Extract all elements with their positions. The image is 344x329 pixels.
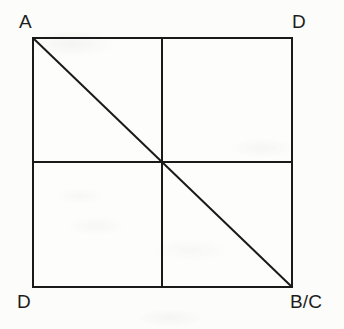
corner-label-top-left: A <box>19 12 32 31</box>
corner-label-bottom-right: B/C <box>290 292 322 311</box>
figure-canvas: A D D B/C <box>0 0 344 329</box>
corner-label-bottom-left: D <box>17 292 31 311</box>
square-diagram <box>0 0 344 329</box>
corner-label-top-right: D <box>292 12 306 31</box>
